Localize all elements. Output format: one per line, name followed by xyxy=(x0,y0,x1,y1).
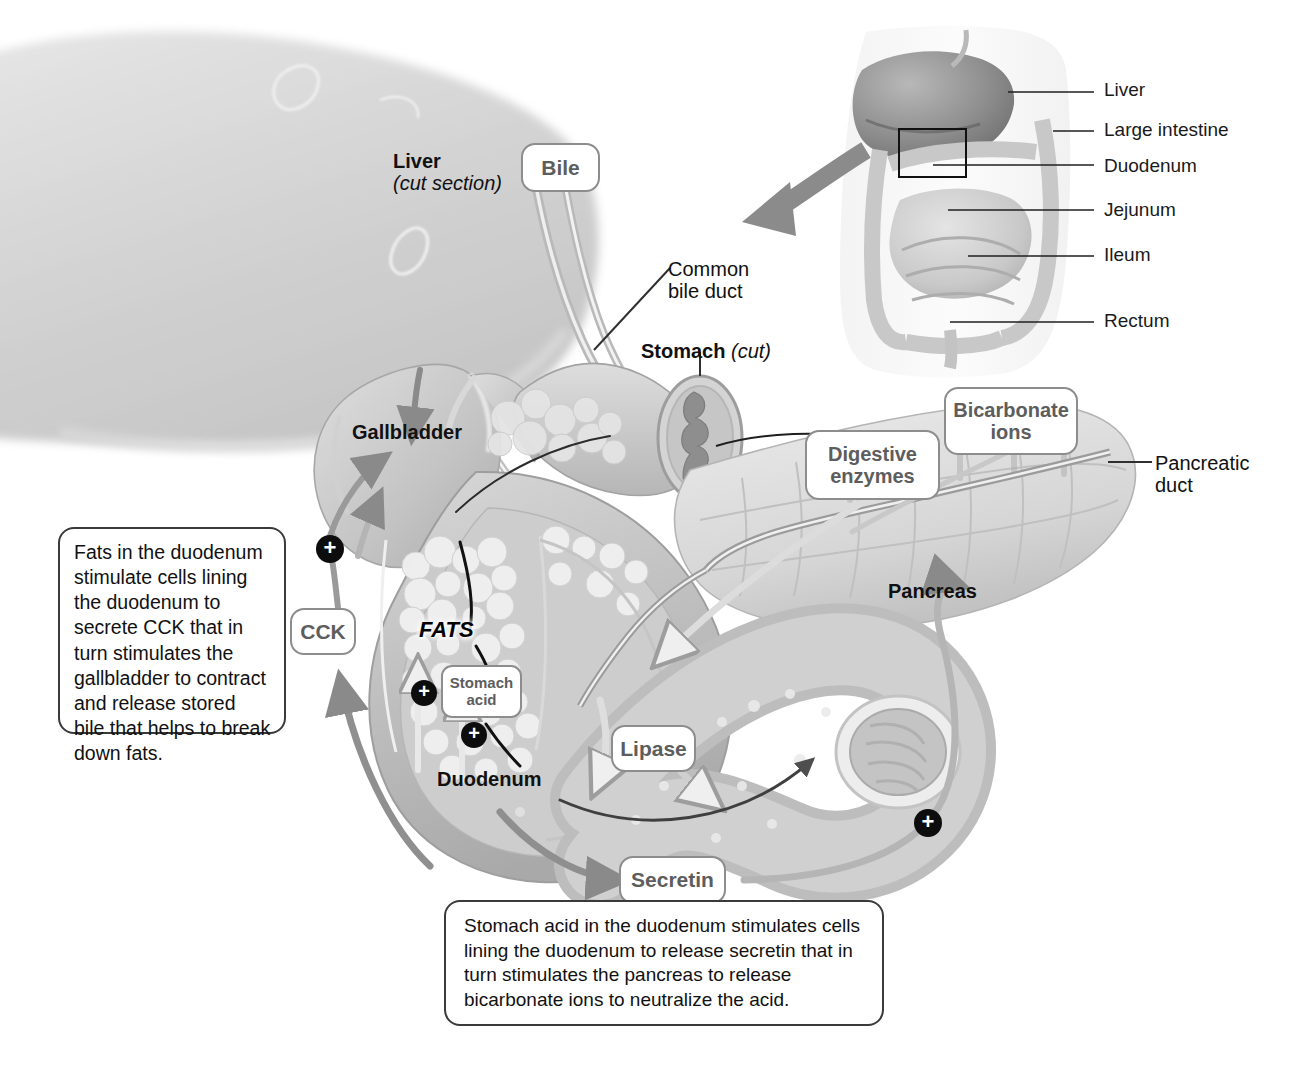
plus-badge-gallbladder: + xyxy=(316,535,344,563)
callout-cck-label: CCK xyxy=(300,620,346,644)
label-pancreatic-duct-line1: Pancreatic xyxy=(1155,452,1250,474)
inset-label-large-intestine: Large intestine xyxy=(1104,119,1229,141)
label-stomach: Stomach (cut) xyxy=(641,340,771,362)
callout-bile[interactable]: Bile xyxy=(521,143,600,192)
inset-anatomy xyxy=(742,26,1094,377)
callout-digestive-enzymes-label: Digestive enzymes xyxy=(828,443,917,488)
explanation-box-secretin: Stomach acid in the duodenum stimulates … xyxy=(444,900,884,1026)
label-liver-text: Liver xyxy=(393,150,441,172)
label-pancreatic-duct-line2: duct xyxy=(1155,474,1193,496)
callout-stomach-acid-label: Stomach acid xyxy=(450,675,513,709)
gallbladder-organ xyxy=(314,365,544,568)
label-stomach-subtext: (cut) xyxy=(731,340,771,362)
label-common-bile-duct: Common bile duct xyxy=(668,258,749,302)
label-liver: Liver (cut section) xyxy=(393,150,502,194)
inset-label-liver: Liver xyxy=(1104,79,1145,101)
explanation-box-cck: Fats in the duodenum stimulate cells lin… xyxy=(58,527,286,734)
callout-stomach-acid-line1: Stomach xyxy=(450,674,513,691)
explanation-box-cck-text: Fats in the duodenum stimulate cells lin… xyxy=(74,540,271,766)
callout-secretin[interactable]: Secretin xyxy=(619,856,726,904)
callout-stomach-acid-line2: acid xyxy=(466,691,496,708)
plus-badge-fats: + xyxy=(411,680,437,706)
plus-badge-pancreas: + xyxy=(914,809,942,837)
callout-bicarbonate-ions[interactable]: Bicarbonate ions xyxy=(944,387,1078,455)
inset-label-duodenum: Duodenum xyxy=(1104,155,1197,177)
bile-duct-system xyxy=(470,186,670,672)
callout-lipase-label: Lipase xyxy=(620,737,687,761)
figure-canvas: Liver Large intestine Duodenum Jejunum I… xyxy=(0,0,1302,1081)
callout-stomach-acid[interactable]: Stomach acid xyxy=(441,665,522,718)
callout-bicarbonate-ions-label: Bicarbonate ions xyxy=(953,399,1069,444)
liver-cut-section xyxy=(0,31,599,446)
callout-lipase[interactable]: Lipase xyxy=(611,725,696,772)
label-common-bile-duct-line2: bile duct xyxy=(668,280,743,302)
callout-bicarbonate-line1: Bicarbonate xyxy=(953,399,1069,421)
label-duodenum: Duodenum xyxy=(437,768,541,790)
label-common-bile-duct-line1: Common xyxy=(668,258,749,280)
inset-label-rectum: Rectum xyxy=(1104,310,1169,332)
callout-digestive-enzymes-line2: enzymes xyxy=(830,465,915,487)
inset-label-jejunum: Jejunum xyxy=(1104,199,1176,221)
label-gallbladder: Gallbladder xyxy=(352,421,462,443)
callout-bicarbonate-line2: ions xyxy=(990,421,1031,443)
label-stomach-text: Stomach xyxy=(641,340,725,362)
callout-cck[interactable]: CCK xyxy=(290,608,356,655)
label-fats: FATS xyxy=(419,618,474,642)
callout-digestive-enzymes-line1: Digestive xyxy=(828,443,917,465)
label-pancreatic-duct: Pancreatic duct xyxy=(1155,452,1250,496)
callout-secretin-label: Secretin xyxy=(631,868,714,892)
callout-digestive-enzymes[interactable]: Digestive enzymes xyxy=(805,430,940,500)
plus-badge-stomach-acid: + xyxy=(461,722,487,748)
inset-label-ileum: Ileum xyxy=(1104,244,1150,266)
explanation-box-secretin-text: Stomach acid in the duodenum stimulates … xyxy=(464,914,866,1012)
callout-bile-label: Bile xyxy=(541,156,580,180)
label-liver-subtext: (cut section) xyxy=(393,172,502,194)
label-pancreas: Pancreas xyxy=(888,580,977,602)
